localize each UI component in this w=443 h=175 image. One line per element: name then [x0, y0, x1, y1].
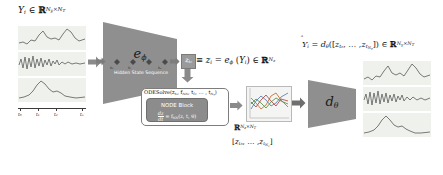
output-equation: Ŷi = dθ([zt₀, … ,ztNT]) ∈ ℝNy×NT [302, 40, 414, 51]
arrow-hidden-out [170, 57, 180, 66]
tick-t1: t₁ [36, 112, 40, 117]
input-signal-panel-3 [18, 78, 86, 102]
arrow-ode-to-latent-plot [230, 100, 243, 111]
tick-t0: t₀ [18, 112, 22, 117]
input-signal-panel-1 [18, 26, 86, 50]
input-label: Yi ∈ ℝNy×NT [18, 6, 65, 16]
tick-t2: t₂ [54, 112, 58, 117]
hidden-state-dot-1 [114, 59, 120, 62]
hidden-state-dot-4 [162, 59, 168, 62]
hidden-state-dot-3 [146, 59, 152, 62]
input-in: ∈ [29, 5, 36, 15]
arrow-hidden-in [96, 57, 106, 66]
odesolve-signature: ODESolve(zt₀, fNN, t0, … , tNT) [144, 90, 217, 97]
real-space-symbol: ℝ [38, 5, 45, 15]
decoder-trapezoid: dθ [308, 80, 356, 128]
latent-equation: ≡ zi = eϕ (Yi) ∈ ℝNz [196, 56, 275, 65]
latent-trajectory-plot [246, 86, 292, 122]
latent-sequence-label: [zt₀, … ,ztNT] [232, 138, 273, 148]
input-signal-panel-2 [18, 52, 86, 76]
latent-initial-badge: zt₀ [181, 54, 196, 69]
output-signal-panel-3 [363, 113, 431, 137]
arrow-latent-to-decoder [292, 97, 306, 109]
latent-space-label: ℝNz×NT [234, 124, 256, 131]
node-block: NODE Block dz dt = fNN(z, t, θ) [146, 98, 208, 122]
input-time-axis: t₀ t₁ t₂ tₙ [18, 108, 86, 122]
hidden-state-caption: Hidden State Sequence [104, 70, 178, 75]
node-block-equation: dz dt = fNN(z, t, θ) [147, 111, 207, 123]
output-signal-panel-2 [363, 87, 431, 111]
arrow-latent-to-ode [181, 69, 194, 83]
tick-tn: tₙ [80, 112, 84, 117]
output-signal-panel-1 [363, 61, 431, 85]
node-block-title: NODE Block [147, 102, 207, 108]
hidden-state-sequence: h₀ h₁ hₙ Hidden State Sequence [104, 57, 178, 75]
decoder-symbol: dθ [308, 94, 356, 110]
hidden-state-dot-2 [130, 59, 136, 62]
